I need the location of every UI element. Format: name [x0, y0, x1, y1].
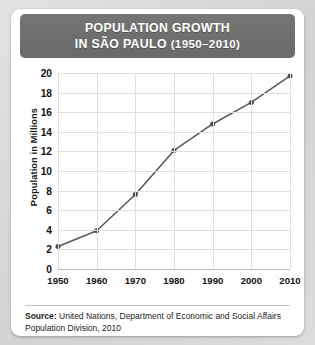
gridline-vertical	[97, 73, 98, 269]
y-axis-label: Population in Millions	[29, 87, 39, 227]
gridline-vertical	[174, 73, 175, 269]
x-axis-tick-label: 1960	[86, 275, 107, 286]
gridline-horizontal	[58, 269, 290, 270]
plot-region: 0246810121416182019501960197019801990200…	[58, 73, 290, 269]
gridline-vertical	[213, 73, 214, 269]
x-axis-tick-label: 2000	[241, 275, 262, 286]
y-axis-tick-label: 20	[41, 68, 52, 79]
y-axis-tick-label: 14	[41, 126, 52, 137]
y-axis-tick-label: 6	[46, 205, 52, 216]
x-axis-tick-label: 1980	[163, 275, 184, 286]
chart-header-bar: POPULATION GROWTH IN SÃO PAULO (1950–201…	[20, 14, 295, 58]
chart-title-line-1: POPULATION GROWTH	[85, 21, 230, 36]
chart-title-place: IN SÃO PAULO	[75, 37, 167, 51]
y-axis-tick-label: 0	[46, 264, 52, 275]
x-axis-tick-label: 1950	[47, 275, 68, 286]
chart-card: POPULATION GROWTH IN SÃO PAULO (1950–201…	[11, 9, 304, 336]
source-note: Source: United Nations, Department of Ec…	[25, 311, 293, 334]
chart-title-years: (1950–2010)	[171, 37, 241, 50]
gridline-vertical	[290, 73, 291, 269]
footer-divider	[25, 305, 290, 306]
y-axis-tick-label: 4	[46, 224, 52, 235]
y-axis-tick-label: 2	[46, 244, 52, 255]
y-axis-tick-label: 16	[41, 107, 52, 118]
x-axis-tick-label: 1970	[125, 275, 146, 286]
source-text: United Nations, Department of Economic a…	[25, 311, 281, 333]
chart-area: Population in Millions 02468101214161820…	[11, 59, 304, 299]
y-axis-tick-label: 18	[41, 87, 52, 98]
y-axis-tick-label: 8	[46, 185, 52, 196]
y-axis-tick-label: 10	[41, 166, 52, 177]
gridline-vertical	[135, 73, 136, 269]
source-label: Source:	[25, 311, 57, 321]
x-axis-tick-label: 2010	[279, 275, 300, 286]
y-axis-tick-label: 12	[41, 146, 52, 157]
screenshot-root: POPULATION GROWTH IN SÃO PAULO (1950–201…	[0, 0, 315, 345]
x-axis-tick-label: 1990	[202, 275, 223, 286]
gridline-vertical	[58, 73, 59, 269]
chart-title-line-2: IN SÃO PAULO (1950–2010)	[75, 36, 241, 52]
gridline-vertical	[251, 73, 252, 269]
